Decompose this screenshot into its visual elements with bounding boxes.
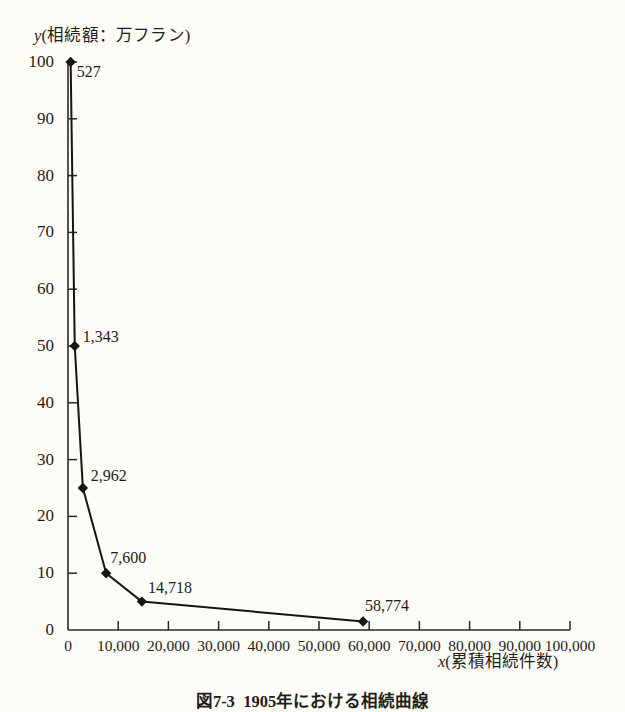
data-point-label: 527 bbox=[77, 64, 101, 80]
figure-number: 図7-3 bbox=[196, 692, 235, 711]
figure-caption: 図7-3 1905年における相続曲線 bbox=[0, 688, 625, 712]
data-point-label: 58,774 bbox=[365, 598, 409, 614]
y-tick-label: 50 bbox=[8, 337, 54, 354]
y-tick-label: 0 bbox=[8, 621, 54, 638]
y-tick-label: 30 bbox=[8, 451, 54, 468]
y-tick-label: 20 bbox=[8, 507, 54, 524]
data-point-marker bbox=[70, 341, 80, 351]
y-tick-label: 100 bbox=[8, 53, 54, 70]
data-point-label: 1,343 bbox=[83, 329, 119, 345]
y-tick-label: 40 bbox=[8, 394, 54, 411]
y-tick-label: 80 bbox=[8, 167, 54, 184]
x-axis-title-rest: (累積相続件数) bbox=[445, 652, 558, 671]
data-point-marker bbox=[358, 616, 368, 626]
axes-group bbox=[68, 62, 570, 630]
data-point-label: 2,962 bbox=[91, 468, 127, 484]
y-tick-label: 10 bbox=[8, 564, 54, 581]
data-point-marker bbox=[78, 483, 88, 493]
data-point-marker bbox=[65, 57, 75, 67]
data-point-label: 14,718 bbox=[148, 580, 192, 596]
x-axis-title: x(累積相続件数) bbox=[438, 648, 558, 672]
data-point-label: 7,600 bbox=[110, 550, 146, 566]
y-tick-label: 60 bbox=[8, 280, 54, 297]
figure-caption-text: 1905年における相続曲線 bbox=[243, 692, 429, 711]
x-tick-marks bbox=[118, 621, 570, 630]
y-tick-label: 90 bbox=[8, 110, 54, 127]
y-tick-label: 70 bbox=[8, 223, 54, 240]
